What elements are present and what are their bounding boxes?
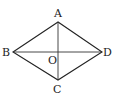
label-b: B [2,46,10,59]
label-o: O [48,54,57,67]
rhombus-outline [13,22,102,80]
label-c: C [53,83,61,96]
label-d: D [103,46,112,59]
rhombus-diagram: A B D O C [0,0,117,104]
label-a: A [53,7,63,20]
